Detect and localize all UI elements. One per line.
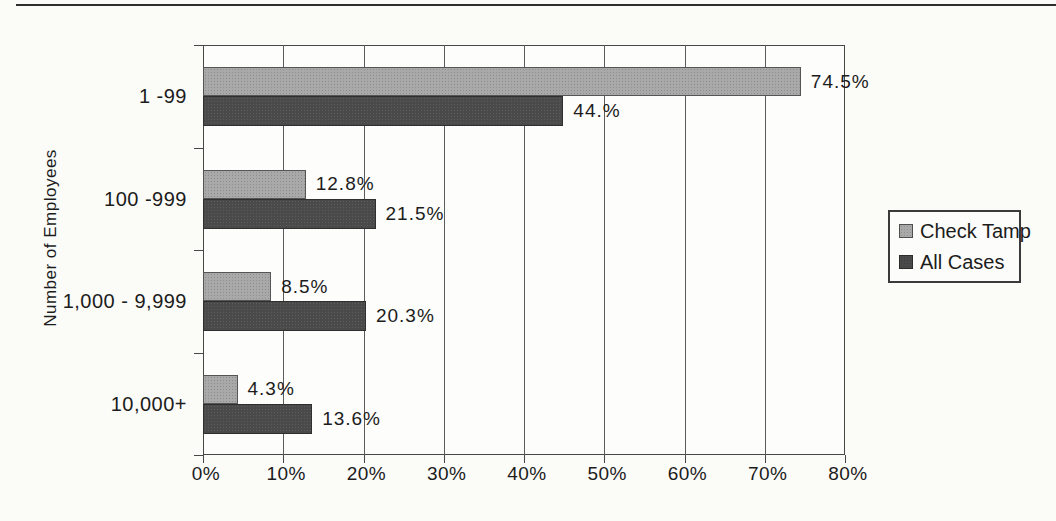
bar-all-cases-4 [203, 404, 312, 434]
bar-check-tamp-1 [203, 67, 801, 96]
bar-check-tamp-2 [203, 170, 306, 199]
bar-all-cases-2 [203, 199, 376, 229]
legend-swatch-all-cases [899, 255, 913, 269]
bar-all-cases-3 [203, 301, 366, 331]
bar-check-tamp-3 [203, 272, 271, 301]
y-axis-tick-0 [194, 45, 203, 46]
bar-value-label-all-cases-1: 44.% [573, 100, 620, 122]
y-axis-tick-2 [194, 250, 203, 251]
page-rule-line [16, 4, 1056, 6]
category-label-1: 1 -99 [0, 85, 187, 108]
legend-swatch-check-tamp [899, 224, 913, 238]
x-tick-label-50%: 50% [587, 463, 627, 485]
scanned-chart-page: Number of Employees 0%10%20%30%40%50%60%… [0, 0, 1056, 521]
x-axis-tick-40% [524, 455, 525, 463]
category-label-4: 10,000+ [0, 392, 187, 415]
legend-label-check-tamp: Check Tamp [920, 220, 1031, 243]
y-axis-tick-1 [194, 148, 203, 149]
x-tick-label-0%: 0% [192, 463, 220, 485]
x-axis-tick-60% [685, 455, 686, 463]
x-tick-label-10%: 10% [266, 463, 306, 485]
bar-value-label-all-cases-2: 21.5% [386, 203, 445, 225]
legend: Check Tamp All Cases [888, 210, 1021, 283]
bar-value-label-check-tamp-1: 74.5% [811, 71, 870, 93]
x-axis-tick-30% [444, 455, 445, 463]
x-axis-tick-50% [604, 455, 605, 463]
legend-item-all-cases: All Cases [899, 251, 1019, 274]
bar-value-label-check-tamp-4: 4.3% [248, 378, 295, 400]
bar-value-label-check-tamp-2: 12.8% [316, 173, 375, 195]
x-axis-tick-0% [203, 455, 204, 463]
bar-check-tamp-4 [203, 375, 238, 404]
x-tick-label-30%: 30% [427, 463, 467, 485]
bar-value-label-all-cases-3: 20.3% [376, 305, 435, 327]
x-axis-tick-70% [765, 455, 766, 463]
legend-item-check-tamp: Check Tamp [899, 220, 1019, 243]
x-tick-label-80%: 80% [828, 463, 868, 485]
bar-value-label-all-cases-4: 13.6% [322, 408, 381, 430]
x-axis-tick-10% [283, 455, 284, 463]
bar-all-cases-1 [203, 96, 563, 126]
category-label-3: 1,000 - 9,999 [0, 290, 187, 313]
gridline-60% [685, 45, 686, 455]
x-tick-label-60%: 60% [668, 463, 708, 485]
x-tick-label-20%: 20% [347, 463, 387, 485]
legend-label-all-cases: All Cases [920, 251, 1004, 274]
y-axis-tick-4 [194, 455, 203, 456]
x-axis-tick-20% [364, 455, 365, 463]
x-tick-label-40%: 40% [507, 463, 547, 485]
gridline-70% [765, 45, 766, 455]
x-axis-tick-80% [845, 455, 846, 463]
x-tick-label-70%: 70% [748, 463, 788, 485]
bar-value-label-check-tamp-3: 8.5% [281, 276, 328, 298]
category-label-2: 100 -999 [0, 187, 187, 210]
y-axis-tick-3 [194, 353, 203, 354]
